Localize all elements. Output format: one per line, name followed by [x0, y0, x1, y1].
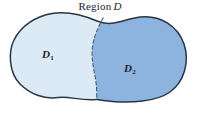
figure-title: RegionD: [0, 0, 200, 12]
figure-title-prefix: Region: [78, 0, 111, 12]
region-label-d1: D1: [42, 48, 53, 60]
region-label-d1-base: D: [42, 48, 50, 60]
region-label-d1-subscript: 1: [50, 54, 54, 62]
region-label-d2-base: D: [124, 62, 132, 74]
region-label-d2: D2: [124, 62, 135, 74]
figure-region-d: RegionD D1 D2: [0, 0, 200, 117]
region-label-d2-subscript: 2: [132, 68, 136, 76]
region-diagram-svg: [0, 0, 200, 117]
figure-title-variable: D: [111, 0, 121, 12]
